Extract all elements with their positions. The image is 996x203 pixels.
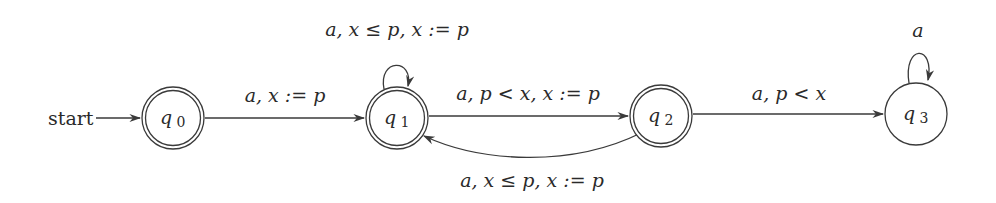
state-q3: q 3 xyxy=(885,83,947,145)
transition-label: a, x := p xyxy=(245,84,326,106)
start-label: start xyxy=(48,107,94,129)
state-q2: q 2 xyxy=(630,85,692,147)
state-q0: q 0 xyxy=(142,87,204,149)
state-subscript: 2 xyxy=(665,112,674,128)
state-name: q xyxy=(160,106,172,128)
automaton-diagram: start a, x := p a, x ≤ p, x := p a, p < … xyxy=(0,0,996,203)
transition-q3-self: a xyxy=(908,19,929,83)
self-loop-arrow-icon xyxy=(383,65,408,89)
state-name: q xyxy=(384,106,396,128)
state-subscript: 0 xyxy=(177,114,186,130)
transition-label: a, x ≤ p, x := p xyxy=(460,169,604,191)
start-indicator: start xyxy=(48,107,140,129)
state-subscript: 3 xyxy=(920,110,929,126)
transition-label: a, p < x, x := p xyxy=(456,82,600,104)
edge-arrow-icon xyxy=(424,133,641,157)
state-subscript: 1 xyxy=(401,114,410,130)
state-name: q xyxy=(903,102,915,124)
transition-label: a xyxy=(912,19,923,41)
transition-q1-q2: a, p < x, x := p xyxy=(429,82,628,116)
transition-q2-q3: a, p < x xyxy=(693,82,883,114)
state-q1: q 1 xyxy=(366,87,428,149)
transition-q0-q1: a, x := p xyxy=(205,84,364,118)
transition-q2-q1: a, x ≤ p, x := p xyxy=(424,133,641,191)
transition-label: a, x ≤ p, x := p xyxy=(325,18,469,40)
self-loop-arrow-icon xyxy=(908,53,929,83)
transition-q1-self: a, x ≤ p, x := p xyxy=(325,18,469,89)
transition-label: a, p < x xyxy=(752,82,827,104)
state-name: q xyxy=(648,104,660,126)
